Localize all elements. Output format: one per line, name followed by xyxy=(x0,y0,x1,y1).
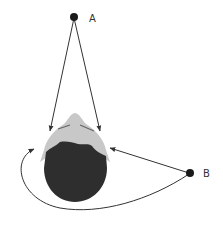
arrow-a-left-ear xyxy=(50,18,74,131)
source-b-dot xyxy=(186,169,194,177)
arrow-b-right-ear xyxy=(110,148,189,173)
source-a-dot xyxy=(70,13,78,21)
arrow-a-right-ear xyxy=(74,18,100,131)
diagram-canvas: A B xyxy=(0,0,223,226)
source-a-label: A xyxy=(89,13,96,24)
source-b-label: B xyxy=(203,168,210,179)
